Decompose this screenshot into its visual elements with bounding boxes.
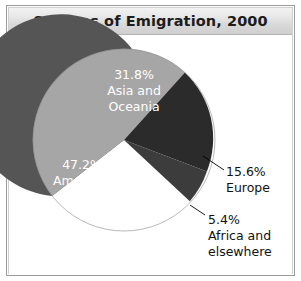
slice-label-asia-value: 31.8% bbox=[114, 67, 154, 82]
pie-chart-figure: Sources of Emigration, 2000 31.8% Asia a… bbox=[0, 0, 301, 281]
callout-label-africa-line2: Africa and bbox=[208, 228, 271, 243]
slice-label-americas-value: 47.2% bbox=[62, 157, 102, 172]
slice-label-asia-line3: Oceania bbox=[108, 99, 159, 114]
callout-label-europe-value: 15.6% bbox=[226, 164, 266, 179]
slice-label-asia-line2: Asia and bbox=[107, 83, 161, 98]
africa-leader-line bbox=[190, 205, 205, 215]
callout-label-europe-line2: Europe bbox=[226, 180, 270, 195]
pie-chart-svg: 31.8% Asia and Oceania 47.2% Americas 15… bbox=[0, 0, 301, 281]
callout-label-africa-line3: elsewhere bbox=[208, 244, 272, 259]
callout-label-africa-value: 5.4% bbox=[208, 212, 240, 227]
slice-label-americas-line2: Americas bbox=[53, 173, 111, 188]
